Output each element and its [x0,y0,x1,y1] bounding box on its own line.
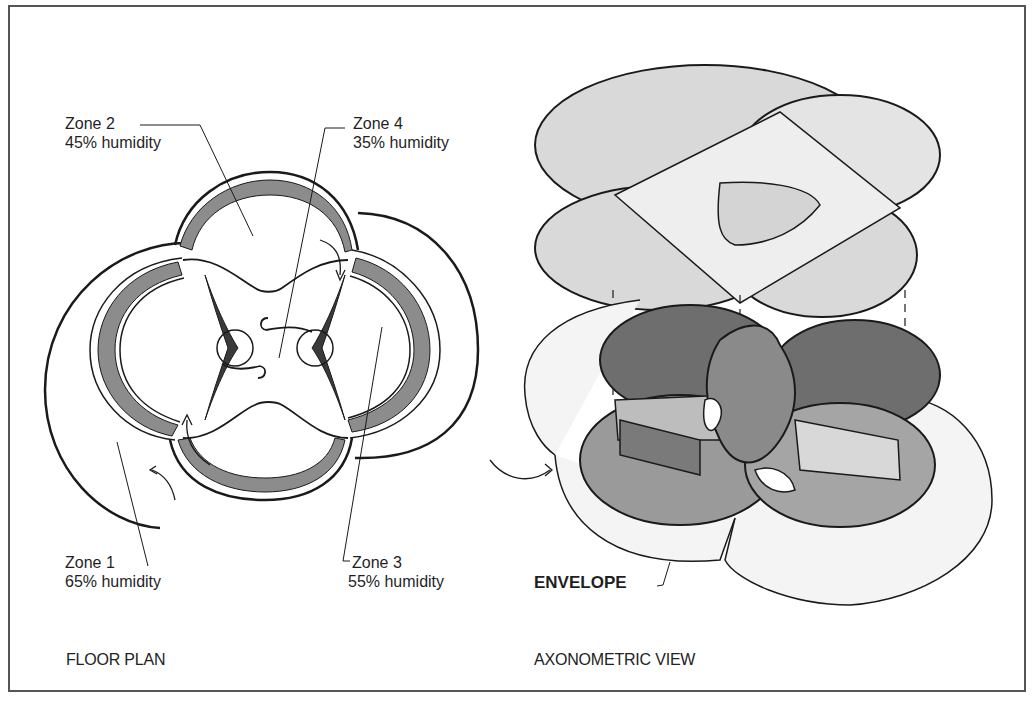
zone-3-humidity: 55% humidity [348,572,444,591]
axonometric-drawing [0,0,1036,707]
floor-plan-caption: FLOOR PLAN [66,651,165,669]
zone-4-name: Zone 4 [353,114,449,133]
leader-envelope [657,562,670,586]
zone-3-label: Zone 3 55% humidity [348,553,444,591]
zone-3-name: Zone 3 [348,553,444,572]
axonometric-view-caption: AXONOMETRIC VIEW [534,651,695,669]
zone-1-label: Zone 1 65% humidity [65,553,161,591]
zone-2-name: Zone 2 [65,114,161,133]
envelope-label: ENVELOPE [534,573,627,592]
zone-2-label: Zone 2 45% humidity [65,114,161,152]
zone-1-humidity: 65% humidity [65,572,161,591]
entry-arrow-head [545,464,552,476]
zone-4-label: Zone 4 35% humidity [353,114,449,152]
zone-1-name: Zone 1 [65,553,161,572]
entry-arrow [490,460,550,479]
zone-4-humidity: 35% humidity [353,133,449,152]
zone-2-humidity: 45% humidity [65,133,161,152]
